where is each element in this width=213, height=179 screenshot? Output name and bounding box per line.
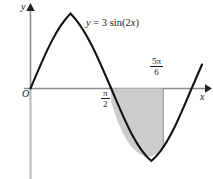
fraction-numerator: 5π [150, 57, 163, 66]
shaded-region [111, 89, 163, 157]
fraction-5pi-over-6: 5π 6 [150, 57, 163, 78]
x-tick-label-pi-over-2: π 2 [101, 89, 110, 110]
origin-label: O [22, 89, 29, 99]
equation-close-paren: ) [135, 17, 139, 28]
sine-curve [31, 14, 203, 162]
x-tick-label-5pi-over-6: 5π 6 [150, 57, 163, 78]
x-axis-arrowhead [205, 84, 212, 93]
curve-equation-label: y = 3 sin(2x) [86, 18, 139, 29]
fraction-pi-over-2: π 2 [101, 89, 110, 110]
y-axis-label: y [21, 2, 25, 12]
fraction-numerator: π [101, 89, 110, 98]
fraction-denominator: 2 [101, 98, 110, 109]
x-axis-label: x [200, 92, 204, 102]
equation-operator: = 3 sin(2 [91, 17, 131, 28]
y-axis-arrowhead [26, 3, 35, 11]
fraction-denominator: 6 [150, 66, 163, 77]
